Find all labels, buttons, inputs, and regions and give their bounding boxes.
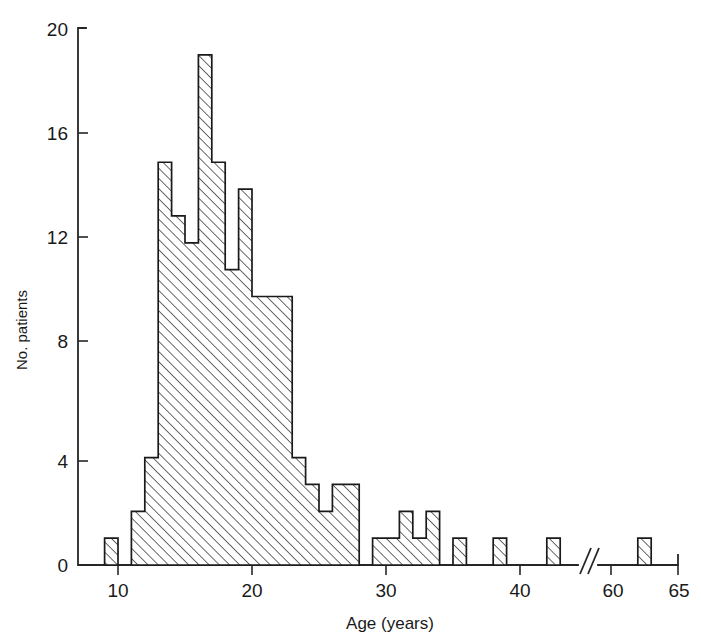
histogram-bar-group xyxy=(453,538,466,565)
histogram-bar-group xyxy=(493,538,506,565)
x-tick-label-40: 40 xyxy=(509,580,530,601)
x-tick-label-60: 60 xyxy=(602,580,623,601)
y-tick-label-4: 4 xyxy=(57,451,68,472)
y-tick-label-20: 20 xyxy=(47,19,68,40)
histogram-bar-group xyxy=(105,538,118,565)
histogram-bar-group xyxy=(638,538,651,565)
y-axis-title: No. patients xyxy=(13,290,30,370)
y-tick-label-0: 0 xyxy=(57,555,68,576)
histogram-bar-group xyxy=(547,538,560,565)
x-axis-title: Age (years) xyxy=(346,614,434,633)
x-tick-label-65: 65 xyxy=(668,580,689,601)
y-tick-label-8: 8 xyxy=(57,331,68,352)
y-tick-label-16: 16 xyxy=(47,123,68,144)
x-tick-label-30: 30 xyxy=(375,580,396,601)
x-tick-label-10: 10 xyxy=(107,580,128,601)
y-tick-label-12: 12 xyxy=(47,227,68,248)
x-tick-label-20: 20 xyxy=(241,580,262,601)
histogram-figure: 20 16 12 8 4 0 No. patients 10 20 30 40 … xyxy=(0,0,701,640)
